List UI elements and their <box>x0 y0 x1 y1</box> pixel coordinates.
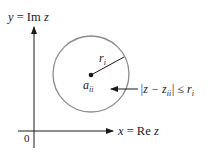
center-label: aii <box>83 78 93 94</box>
inequality-label: |z − zii| ≤ ri <box>140 82 194 98</box>
gershgorin-disk-diagram: y = Im z x = Re z 0 ri aii |z − zii| ≤ r… <box>0 0 210 153</box>
radius-line <box>91 57 124 75</box>
x-axis-label: x = Re z <box>117 124 159 138</box>
origin-label: 0 <box>24 132 30 144</box>
radius-label: ri <box>99 51 106 67</box>
y-axis-label: y = Im z <box>6 10 49 24</box>
